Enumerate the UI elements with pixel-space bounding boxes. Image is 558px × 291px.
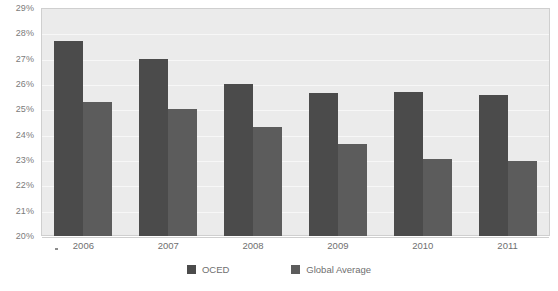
legend-item-oced[interactable]: OCED <box>187 264 229 275</box>
bar <box>423 159 452 236</box>
bar-group <box>479 8 537 236</box>
x-axis-tick-label: 2010 <box>412 240 433 251</box>
y-axis-tick-label: 29% <box>16 3 34 13</box>
x-axis-tick-label: 2008 <box>243 240 264 251</box>
bar <box>54 41 83 236</box>
bar <box>168 109 197 236</box>
bar <box>479 95 508 236</box>
legend-label: Global Average <box>306 264 371 275</box>
y-axis-tick-label: 21% <box>16 206 34 216</box>
y-axis-tick-label: 26% <box>16 79 34 89</box>
bar <box>394 92 423 236</box>
chart-legend: OCEDGlobal Average <box>0 264 558 275</box>
x-axis-tick-label: 2006 <box>73 240 94 251</box>
x-axis-tick-marker <box>55 248 58 250</box>
bar <box>83 102 112 236</box>
bar <box>508 161 537 236</box>
bar <box>309 93 338 236</box>
legend-label: OCED <box>202 264 229 275</box>
y-axis-tick-label: 25% <box>16 104 34 114</box>
bar-group <box>224 8 282 236</box>
y-axis-tick-label: 28% <box>16 28 34 38</box>
legend-swatch-icon <box>187 265 196 274</box>
bar-chart: 20%21%22%23%24%25%26%27%28%29% 200620072… <box>0 0 558 291</box>
x-axis-tick-label: 2009 <box>327 240 348 251</box>
bar-group <box>139 8 197 236</box>
y-axis-tick-label: 22% <box>16 180 34 190</box>
bar <box>253 127 282 236</box>
y-axis-tick-label: 24% <box>16 130 34 140</box>
x-axis-tick-label: 2007 <box>158 240 179 251</box>
y-axis-tick-label: 23% <box>16 155 34 165</box>
y-axis: 20%21%22%23%24%25%26%27%28%29% <box>0 8 38 236</box>
y-axis-tick-label: 20% <box>16 231 34 241</box>
bar-group <box>54 8 112 236</box>
legend-item-global-average[interactable]: Global Average <box>291 264 371 275</box>
bar-group <box>309 8 367 236</box>
y-axis-tick-label: 27% <box>16 54 34 64</box>
x-axis: 200620072008200920102011 <box>41 238 550 258</box>
bar <box>139 59 168 236</box>
bar <box>224 84 253 236</box>
bar <box>338 144 367 236</box>
legend-swatch-icon <box>291 265 300 274</box>
bar-group <box>394 8 452 236</box>
bars-layer <box>41 8 550 236</box>
x-axis-tick-label: 2011 <box>497 240 517 251</box>
